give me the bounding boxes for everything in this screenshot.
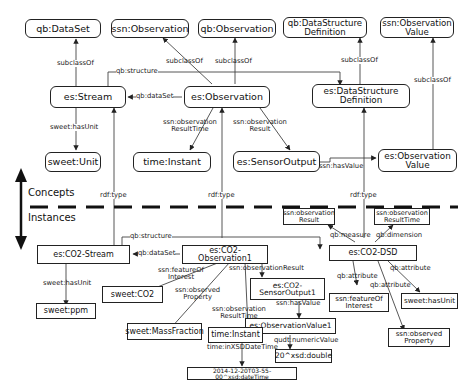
node-es-observation[interactable]: es:Observation <box>184 86 270 108</box>
node-es-sensor-output[interactable]: es:SensorOutput <box>233 151 320 172</box>
node-sweet-unit[interactable]: sweet:Unit <box>45 152 101 172</box>
edge-label-qb-dataset: qb:dataSet <box>136 93 173 100</box>
node-time-instant[interactable]: time:Instant <box>133 152 211 172</box>
edge-label-subclassof: subclassOf <box>414 77 451 84</box>
node-es-observation-value[interactable]: es:Observation Value <box>378 149 457 172</box>
edge-label-qudt-numericvalue: qudt:numericValue <box>274 337 338 344</box>
node-es-co2-stream[interactable]: es:CO2-Stream <box>37 245 130 264</box>
edge-label-qb-attribute: qb:attribute <box>390 265 431 272</box>
edge-label-ssn-hasvalue: ssn:hasValue <box>319 163 363 170</box>
edge-label-rdf-type: rdf:type <box>208 192 235 199</box>
edge-label-qb-dataset: qb:dataSet <box>138 250 175 257</box>
edge-label-qb-dimension: qb:dimension <box>376 232 422 239</box>
node-sweet-has-unit[interactable]: sweet:hasUnit <box>401 293 458 309</box>
edge-label-qb-measure: qb:measure <box>330 232 371 239</box>
node-datetime-value[interactable]: 2014-12-20T03-55-00^xsd:dateTime <box>187 367 297 380</box>
node-ssn-observation-value[interactable]: ssn:Observation Value <box>380 17 454 38</box>
node-es-co2-sensoroutput1[interactable]: es:CO2- SensorOutput1 <box>250 278 325 300</box>
edge-label-sweet-hasunit: sweet:hasUnit <box>43 280 91 287</box>
node-es-dsd[interactable]: es:DataStructure Definition <box>312 84 410 108</box>
edge-label-sweet-hasunit: sweet:hasUnit <box>50 124 98 131</box>
edge-label-ssn-featureofinterest: ssn:featureOf Interest <box>158 267 204 281</box>
ontology-diagram: Concepts Instances qb:DataSet ssn:Observ… <box>0 0 472 387</box>
edge-label-ssn-hasvalue: ssn:hasValue <box>276 300 320 307</box>
edge-label-subclassof: subclassOf <box>57 60 94 67</box>
node-es-co2-observation1[interactable]: es:CO2-Observation1 <box>182 245 268 264</box>
edge-label-ssn-observationresult: ssn:observationResult <box>229 265 304 272</box>
node-ssn-observed-property[interactable]: ssn:observed Property <box>388 328 450 347</box>
node-sweet-ppm[interactable]: sweet:ppm <box>36 303 96 319</box>
edge-label-qb-attribute: qb:attribute <box>337 273 378 280</box>
edge-label-subclassof: subclassOf <box>166 58 203 65</box>
edge-label-qb-structure: qb:structure <box>130 233 172 240</box>
edge-label-rdf-type: rdf:type <box>350 192 377 199</box>
edge-label-ssn-observation-result: ssn:observation Result <box>233 119 287 133</box>
node-sweet-mass-fraction[interactable]: sweet:MassFraction <box>127 323 202 340</box>
edge-label-qb-structure: qb:structure <box>116 68 158 75</box>
node-ssn-observation-result[interactable]: ssn:observation Result <box>283 208 335 225</box>
instances-layer-label: Instances <box>28 212 76 223</box>
edge-label-subclassof: subclassOf <box>341 57 378 64</box>
concepts-layer-label: Concepts <box>28 187 75 198</box>
edge-label-ssn-observedproperty: ssn:observed Property <box>175 287 220 301</box>
edge-label-subclassof: subclassOf <box>215 58 252 65</box>
edge-label-time-inxsddatetime: time:inXSDDateTime <box>207 344 278 351</box>
node-qb-dsd[interactable]: qb:DataStructure Definition <box>283 17 367 38</box>
node-ssn-observation[interactable]: ssn:Observation <box>111 19 189 38</box>
edge-label-qb-attribute: qb:attribute <box>370 282 411 289</box>
node-sweet-co2[interactable]: sweet:CO2 <box>102 286 163 303</box>
node-qb-dataset[interactable]: qb:DataSet <box>25 19 101 38</box>
node-value-double[interactable]: 20^xsd:double <box>275 349 332 363</box>
node-time-instant-instance[interactable]: time:Instant <box>208 327 263 343</box>
edge-label-ssn-observation-resulttime: ssn:observation ResultTime <box>212 306 266 320</box>
edge-label-rdf-type: rdf:type <box>100 192 127 199</box>
node-qb-observation[interactable]: qb:Observation <box>198 19 276 38</box>
node-es-co2-dsd[interactable]: es:CO2-DSD <box>329 245 417 261</box>
node-ssn-feature-of-interest[interactable]: ssn:featureOf Interest <box>329 293 389 312</box>
edge-label-ssn-observation-resulttime: ssn:observation ResultTime <box>163 119 217 133</box>
node-ssn-observation-result-time[interactable]: ssn:observation ResultTime <box>374 208 430 225</box>
node-es-stream[interactable]: es:Stream <box>50 86 126 108</box>
